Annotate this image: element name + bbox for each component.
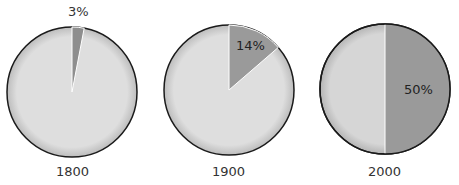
pie-2000: 50% 2000: [306, 0, 459, 185]
pct-label-1800: 3%: [68, 4, 89, 19]
pct-label-2000: 50%: [404, 82, 433, 97]
year-label-1900: 1900: [152, 164, 305, 179]
pie-chart-2000: [306, 0, 459, 185]
pie-chart-1800: [0, 0, 153, 185]
pie-chart-1900: [153, 0, 306, 185]
pct-label-1900: 14%: [236, 38, 265, 53]
year-label-2000: 2000: [308, 164, 459, 179]
pie-1900: 14% 1900: [153, 0, 306, 185]
year-label-1800: 1800: [0, 164, 149, 179]
pie-1800: 3% 1800: [0, 0, 153, 185]
